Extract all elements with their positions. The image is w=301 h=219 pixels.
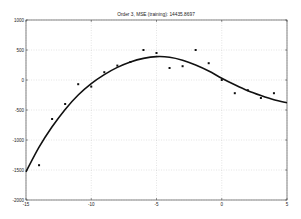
y-tick-label: -500 (15, 108, 25, 113)
data-point (142, 49, 144, 51)
data-point (208, 62, 210, 64)
y-tick-label: -1000 (12, 138, 24, 143)
data-point (77, 83, 79, 85)
data-point (195, 49, 197, 51)
x-tick-label: 5 (286, 202, 289, 207)
data-point (90, 86, 92, 88)
y-tick-label: 1000 (14, 18, 25, 23)
figure: -15-10-50510005000-500-1000-1500-2000 Or… (0, 0, 301, 219)
data-point (273, 92, 275, 94)
x-tick-label: -10 (88, 202, 95, 207)
data-point (51, 118, 53, 120)
data-point (103, 71, 105, 73)
x-tick-label: 0 (220, 202, 223, 207)
data-point (156, 52, 158, 54)
fit-curve (26, 57, 287, 172)
data-point (221, 79, 223, 81)
data-point (129, 61, 131, 63)
data-point (182, 65, 184, 67)
data-point (116, 65, 118, 67)
y-tick-label: 0 (21, 78, 24, 83)
axis-ticks: -15-10-50510005000-500-1000-1500-2000 (12, 18, 288, 208)
data-point (64, 103, 66, 105)
y-tick-label: -2000 (12, 198, 24, 203)
y-tick-label: -1500 (12, 168, 24, 173)
y-tick-label: 500 (16, 48, 24, 53)
data-point (260, 97, 262, 99)
data-point (38, 164, 40, 166)
chart-title: Order 3, MSE (training): 14435.8697 (117, 12, 195, 17)
x-tick-label: -15 (23, 202, 30, 207)
data-point (169, 67, 171, 69)
chart: -15-10-50510005000-500-1000-1500-2000 Or… (0, 0, 301, 219)
data-point (247, 89, 249, 91)
data-point (234, 92, 236, 94)
x-tick-label: -5 (154, 202, 158, 207)
